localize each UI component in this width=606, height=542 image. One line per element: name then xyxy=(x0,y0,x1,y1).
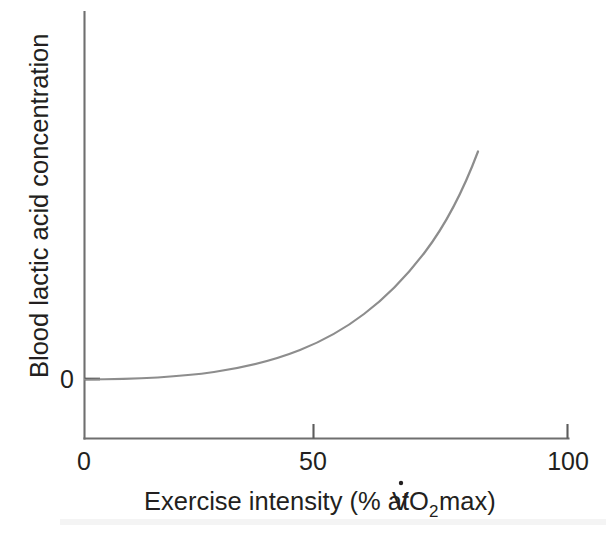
figure-container: 0 50 100 0 Blood lactic acid concentrati… xyxy=(0,0,606,542)
v-dot-icon xyxy=(399,481,403,485)
x-axis-title-o-symbol: O xyxy=(409,487,429,515)
lactate-exercise-chart: 0 50 100 0 Blood lactic acid concentrati… xyxy=(0,0,606,542)
x-tick-label-50: 50 xyxy=(299,447,327,475)
x-axis-title-trail: max) xyxy=(439,487,496,515)
x-axis-title: Exercise intensity (% at V O 2 max) xyxy=(144,481,496,521)
y-tick-label-0: 0 xyxy=(60,365,74,393)
x-axis-title-lead: Exercise intensity (% at xyxy=(144,487,409,515)
x-tick-label-0: 0 xyxy=(77,447,91,475)
x-tick-label-100: 100 xyxy=(547,447,589,475)
lactate-curve xyxy=(85,152,478,380)
x-axis-title-v-symbol: V xyxy=(392,487,409,515)
page-edge-band xyxy=(60,519,606,525)
y-axis-title: Blood lactic acid concentration xyxy=(25,34,53,378)
